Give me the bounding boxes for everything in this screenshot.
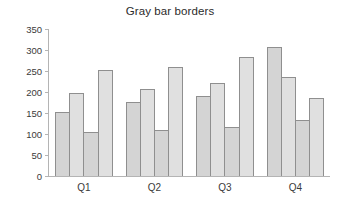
y-tick-label: 0	[37, 171, 42, 182]
bar	[197, 97, 211, 176]
bar	[310, 99, 324, 176]
y-tick-label: 350	[26, 24, 42, 35]
bar	[267, 47, 281, 176]
y-tick-label: 200	[26, 87, 42, 98]
bars-group	[56, 47, 324, 176]
x-tick-label: Q1	[77, 182, 91, 193]
bar	[84, 132, 98, 176]
bar-chart-figure: Gray bar borders 050100150200250300350 Q…	[0, 0, 340, 205]
y-tick-label: 300	[26, 45, 42, 56]
bar	[239, 57, 253, 176]
y-tick-label: 50	[31, 150, 42, 161]
bar	[70, 94, 84, 176]
x-axis: Q1Q2Q3Q4	[48, 177, 330, 194]
y-axis: 050100150200250300350	[26, 24, 48, 182]
bar	[281, 78, 295, 176]
y-tick-label: 150	[26, 108, 42, 119]
bar	[56, 112, 70, 176]
y-tick-label: 100	[26, 129, 42, 140]
x-tick-label: Q4	[289, 182, 303, 193]
bar	[169, 67, 183, 176]
bar	[295, 121, 309, 176]
bar	[140, 89, 154, 176]
bar	[154, 131, 168, 176]
bar	[211, 83, 225, 176]
bar	[98, 71, 112, 176]
x-tick-label: Q2	[148, 182, 162, 193]
chart-plot-area: 050100150200250300350 Q1Q2Q3Q4	[0, 0, 340, 205]
y-tick-label: 250	[26, 66, 42, 77]
x-tick-label: Q3	[218, 182, 232, 193]
bar	[225, 128, 239, 176]
bar	[126, 103, 140, 177]
